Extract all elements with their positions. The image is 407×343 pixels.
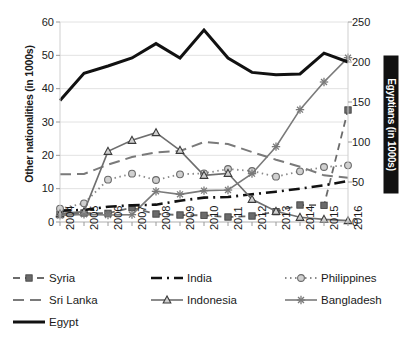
x-tick-2009: 2009 <box>185 206 196 230</box>
series-point-syria <box>321 202 327 208</box>
legend-item-bangladesh[interactable]: Bangladesh <box>284 294 382 306</box>
legend-item-egypt[interactable]: Egypt <box>12 316 78 328</box>
series-point-bangladesh <box>272 142 280 150</box>
y-tick-right-200: 200 <box>352 57 378 68</box>
series-point-syria <box>249 213 255 219</box>
legend-label: Philippines <box>321 272 377 284</box>
series-point-bangladesh <box>320 78 328 86</box>
y-tick-right-150: 150 <box>352 97 378 108</box>
series-point-philippines <box>177 171 184 178</box>
series-point-bangladesh <box>200 186 208 194</box>
legend-swatch-bangladesh <box>284 294 318 306</box>
legend-label: Indonesia <box>187 294 237 306</box>
series-point-bangladesh <box>296 105 304 113</box>
legend-swatch-philippines <box>284 272 318 284</box>
y-tick-right-50: 50 <box>352 177 378 188</box>
legend-label: Bangladesh <box>321 294 382 306</box>
x-tick-2012: 2012 <box>257 206 268 230</box>
y-tick-right-250: 250 <box>352 17 378 28</box>
x-tick-2016: 2016 <box>353 206 364 230</box>
y-tick-right-100: 100 <box>352 137 378 148</box>
legend-label: Syria <box>49 272 75 284</box>
series-point-syria <box>297 202 303 208</box>
legend-label: Egypt <box>49 316 78 328</box>
x-tick-2007: 2007 <box>137 206 148 230</box>
series-point-indonesia <box>152 129 160 136</box>
y-tick-left-40: 40 <box>28 83 54 94</box>
legend-label: Sri Lanka <box>49 294 98 306</box>
series-point-bangladesh <box>176 190 184 198</box>
x-tick-2008: 2008 <box>161 206 172 230</box>
legend-swatch-egypt <box>12 316 46 328</box>
legend-swatch-indonesia <box>150 294 184 306</box>
series-point-philippines <box>129 170 136 177</box>
legend-label: India <box>187 272 212 284</box>
series-point-philippines <box>321 164 328 171</box>
series-point-philippines <box>273 173 280 180</box>
x-tick-2015: 2015 <box>329 206 340 230</box>
series-point-bangladesh <box>104 211 112 219</box>
y-tick-left-50: 50 <box>28 50 54 61</box>
legend-item-syria[interactable]: Syria <box>12 272 75 284</box>
series-point-syria <box>177 212 183 218</box>
series-point-philippines <box>297 168 304 175</box>
series-point-bangladesh <box>248 169 256 177</box>
legend-swatch-india <box>150 272 184 284</box>
series-point-bangladesh <box>152 187 160 195</box>
x-tick-2013: 2013 <box>281 206 292 230</box>
legend-item-india[interactable]: India <box>150 272 212 284</box>
x-tick-2006: 2006 <box>113 206 124 230</box>
y-tick-left-10: 10 <box>28 183 54 194</box>
series-point-philippines <box>153 177 160 184</box>
y-tick-left-20: 20 <box>28 150 54 161</box>
x-tick-2011: 2011 <box>233 206 244 230</box>
line-chart: Other nationalities (in 1000s) Egyptians… <box>0 0 407 343</box>
series-point-bangladesh <box>128 210 136 218</box>
legend-swatch-sri-lanka <box>12 294 46 306</box>
chart-legend: SyriaIndiaPhilippinesSri LankaIndonesiaB… <box>12 272 397 338</box>
series-point-philippines <box>105 176 112 183</box>
series-point-syria <box>225 214 231 220</box>
series-point-syria <box>201 212 207 218</box>
series-point-bangladesh <box>80 210 88 218</box>
x-tick-2014: 2014 <box>305 206 316 230</box>
legend-swatch-syria <box>12 272 46 284</box>
legend-item-sri-lanka[interactable]: Sri Lanka <box>12 294 98 306</box>
series-point-syria <box>153 211 159 217</box>
series-point-bangladesh <box>224 186 232 194</box>
y-tick-left-60: 60 <box>28 17 54 28</box>
x-tick-2004: 2004 <box>65 206 76 230</box>
x-tick-2005: 2005 <box>89 206 100 230</box>
y-tick-left-0: 0 <box>28 217 54 228</box>
legend-item-philippines[interactable]: Philippines <box>284 272 377 284</box>
series-line-egypt <box>60 30 348 100</box>
legend-item-indonesia[interactable]: Indonesia <box>150 294 237 306</box>
y-tick-left-30: 30 <box>28 117 54 128</box>
x-tick-2010: 2010 <box>209 206 220 230</box>
